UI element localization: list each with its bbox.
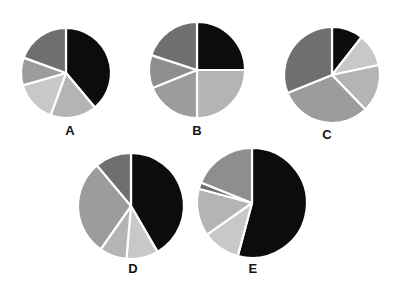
pie-label-c: C: [287, 128, 367, 141]
pie-chart-c: [284, 27, 380, 123]
pie-chart-b: [149, 22, 245, 118]
pie-label-a: A: [30, 124, 110, 137]
pie-chart-a: [21, 28, 111, 118]
pie-charts-canvas: [0, 0, 396, 287]
pie-chart-panel: ABCDE: [0, 0, 396, 287]
pie-label-b: B: [157, 124, 237, 137]
pie-label-d: D: [93, 262, 173, 275]
pie-slice: [197, 22, 245, 70]
pie-chart-d: [78, 153, 184, 259]
pie-slice: [197, 70, 245, 118]
pie-chart-e: [197, 148, 307, 258]
pie-label-e: E: [213, 262, 293, 275]
